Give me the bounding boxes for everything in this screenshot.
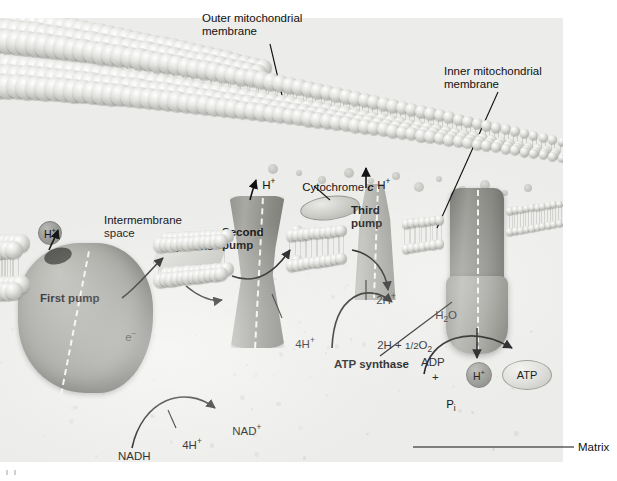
figure-canvas: H+ H+ ATP [0, 0, 617, 481]
caption-remnant [6, 470, 22, 475]
